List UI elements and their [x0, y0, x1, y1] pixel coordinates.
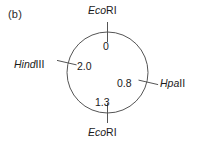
enzyme-genus-text: Hind	[14, 58, 36, 70]
enzyme-genus-text: Eco	[88, 4, 106, 16]
site-label-hindiii: HindIII	[14, 58, 44, 70]
enzyme-genus-text: Eco	[88, 126, 106, 138]
enzyme-numeral-text: RI	[106, 4, 117, 16]
enzyme-numeral-text: II	[179, 77, 185, 89]
position-label-ecori-bottom: 1.3	[95, 96, 110, 108]
enzyme-numeral-text: RI	[106, 126, 117, 138]
site-label-hpaii: HpaII	[160, 77, 185, 89]
tick-mark-hpaii	[139, 80, 159, 85]
plasmid-circle-diagram	[0, 0, 198, 145]
enzyme-numeral-text: III	[36, 58, 45, 70]
position-label-hpaii: 0.8	[117, 77, 132, 89]
enzyme-genus-text: Hpa	[160, 77, 179, 89]
tick-mark-hindiii	[57, 60, 77, 65]
position-label-ecori-top: 0	[103, 40, 109, 52]
position-label-hindiii: 2.0	[77, 60, 92, 72]
site-label-ecori-bottom: EcoRI	[88, 126, 117, 138]
restriction-map-figure: (b) EcoRI HpaII EcoRI HindIII 0 0.8 1.3 …	[0, 0, 198, 145]
site-label-ecori-top: EcoRI	[88, 4, 117, 16]
